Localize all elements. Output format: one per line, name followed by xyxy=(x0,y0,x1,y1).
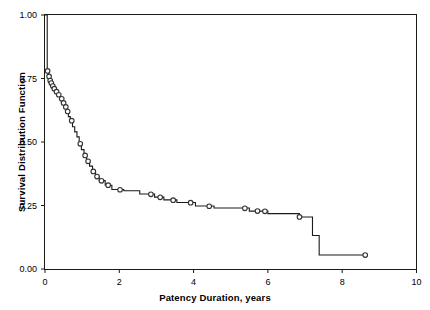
plot-area: 0246810 0.000.250.500.751.00 xyxy=(0,0,430,310)
plot-background xyxy=(0,0,430,310)
x-tick-label: 8 xyxy=(340,277,345,287)
censored-marker xyxy=(95,174,100,179)
survival-chart: 0246810 0.000.250.500.751.00 Patency Dur… xyxy=(0,0,430,310)
censored-marker xyxy=(83,153,88,158)
x-tick-label: 4 xyxy=(191,277,196,287)
x-tick-label: 0 xyxy=(42,277,47,287)
censored-marker xyxy=(363,253,368,258)
x-axis-title: Patency Duration, years xyxy=(0,292,430,303)
censored-marker xyxy=(91,169,96,174)
censored-marker xyxy=(171,198,176,203)
censored-marker xyxy=(158,195,163,200)
censored-marker xyxy=(188,200,193,205)
x-tick-label: 10 xyxy=(411,277,421,287)
censored-marker xyxy=(69,118,74,123)
censored-marker xyxy=(297,215,302,220)
y-axis-title: Survival Distribution Function xyxy=(16,14,27,270)
censored-marker xyxy=(78,141,83,146)
censored-marker xyxy=(118,187,123,192)
censored-marker xyxy=(263,209,268,214)
censored-marker xyxy=(45,69,50,74)
censored-marker xyxy=(64,105,69,110)
censored-marker xyxy=(149,192,154,197)
censored-marker xyxy=(99,179,104,184)
censored-marker xyxy=(106,183,111,188)
censored-marker xyxy=(243,206,248,211)
censored-marker xyxy=(255,209,260,214)
censored-marker xyxy=(86,159,91,164)
x-tick-label: 6 xyxy=(265,277,270,287)
censored-marker xyxy=(207,204,212,209)
censored-marker xyxy=(65,109,70,114)
x-tick-label: 2 xyxy=(117,277,122,287)
